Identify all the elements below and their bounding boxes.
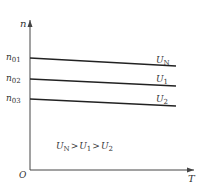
speed-torque-diagram: n T O n01 n02 n03 UN U1 U2 UN>U1>U2 bbox=[0, 0, 206, 191]
tick-n01: n01 bbox=[6, 52, 21, 64]
tick-n03: n03 bbox=[6, 93, 21, 105]
curve-u1 bbox=[30, 79, 176, 86]
relation-annotation: UN>U1>U2 bbox=[56, 141, 113, 153]
curve-u2 bbox=[30, 99, 176, 106]
label-u1: U1 bbox=[156, 74, 168, 86]
curve-un bbox=[30, 58, 176, 66]
tick-n02: n02 bbox=[6, 73, 21, 85]
y-axis-label: n bbox=[20, 18, 26, 29]
x-axis-label: T bbox=[188, 173, 196, 184]
origin-label: O bbox=[19, 170, 27, 180]
label-u2: U2 bbox=[156, 94, 168, 106]
